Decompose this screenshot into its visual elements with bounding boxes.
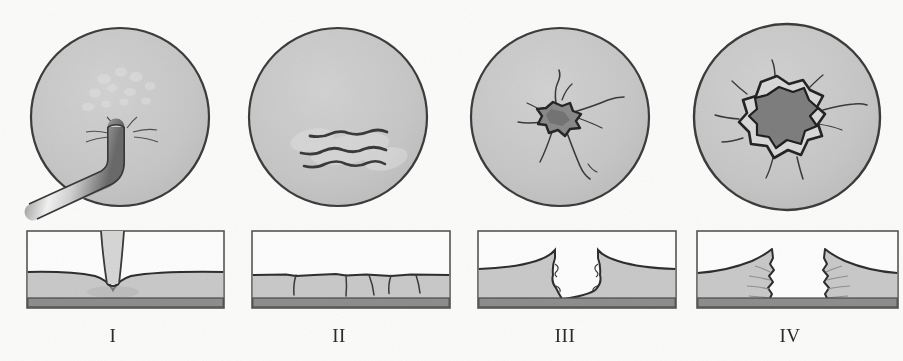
- panel-label-i: I: [0, 326, 226, 345]
- substrate-layer: [698, 298, 897, 307]
- section-view-surface-cracks: [226, 228, 452, 320]
- panel-stage-three: III: [452, 0, 678, 361]
- substrate-layer: [28, 298, 223, 307]
- surface-crack-2: [346, 275, 347, 296]
- probe-tip: [108, 125, 124, 127]
- panel-stage-one: I: [0, 0, 226, 361]
- substrate-layer: [479, 298, 675, 307]
- panel-stage-four: IV: [677, 0, 903, 361]
- plan-view-scratches: [226, 14, 452, 226]
- damage-stages-figure: I: [0, 0, 903, 361]
- panel-label-ii: II: [226, 326, 452, 345]
- plan-disc: [249, 28, 427, 206]
- panel-label-iii: III: [452, 326, 678, 345]
- substrate-layer: [253, 298, 449, 307]
- section-view-indentation: [0, 228, 226, 320]
- dent-shadow: [87, 286, 139, 298]
- panel-stage-two: II: [226, 0, 452, 361]
- plan-view-perforation: [677, 14, 903, 226]
- plan-disc: [31, 28, 209, 206]
- coating-layer: [253, 274, 449, 298]
- panel-label-iv: IV: [677, 326, 903, 345]
- section-view-perforation: [677, 228, 903, 320]
- plan-view-indentation: [0, 14, 226, 226]
- plan-view-star-crack: [452, 14, 678, 226]
- section-view-deep-crater: [452, 228, 678, 320]
